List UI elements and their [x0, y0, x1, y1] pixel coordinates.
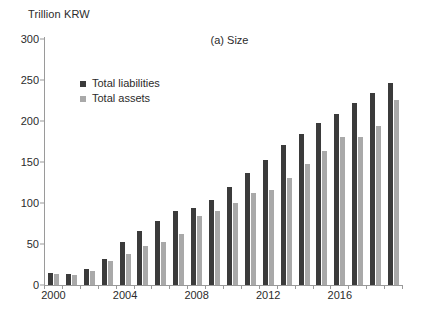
- bar-assets: [251, 193, 256, 285]
- x-tick-mark: [62, 285, 63, 289]
- x-tick-mark: [187, 285, 188, 289]
- y-tick-mark-200: [40, 121, 44, 122]
- y-tick-label-150: 150: [21, 156, 39, 168]
- bar-assets: [126, 254, 131, 285]
- bar-assets: [179, 234, 184, 285]
- bar-liabilities: [334, 114, 339, 285]
- bar-liabilities: [316, 123, 321, 285]
- bar-liabilities: [173, 211, 178, 285]
- x-tick-mark: [98, 285, 99, 289]
- y-tick-label-250: 250: [21, 74, 39, 86]
- bar-liabilities: [191, 208, 196, 285]
- x-tick-mark: [169, 285, 170, 289]
- x-tick-mark: [80, 285, 81, 289]
- chart-figure: Trillion KRW (a) Size 050100150200250300…: [0, 0, 423, 323]
- legend-item-total-liabilities: Total liabilities: [80, 78, 160, 89]
- x-tick-label-2000: 2000: [41, 289, 65, 301]
- x-tick-mark: [277, 285, 278, 289]
- bar-liabilities: [245, 173, 250, 285]
- bar-assets: [197, 216, 202, 285]
- x-tick-mark: [134, 285, 135, 289]
- bar-liabilities: [84, 269, 89, 285]
- bar-liabilities: [155, 221, 160, 285]
- chart-legend: Total liabilities Total assets: [80, 78, 160, 108]
- bar-liabilities: [388, 83, 393, 285]
- x-tick-label-2012: 2012: [256, 289, 280, 301]
- bar-liabilities: [299, 134, 304, 285]
- x-tick-mark: [259, 285, 260, 289]
- x-tick-mark: [348, 285, 349, 289]
- bar-liabilities: [48, 273, 53, 285]
- x-tick-mark: [151, 285, 152, 289]
- x-tick-mark: [402, 285, 403, 289]
- bar-assets: [376, 126, 381, 285]
- legend-label-total-assets: Total assets: [92, 93, 150, 104]
- y-tick-label-100: 100: [21, 197, 39, 209]
- bar-assets: [305, 164, 310, 285]
- y-tick-mark-100: [40, 203, 44, 204]
- bar-assets: [143, 246, 148, 285]
- y-tick-mark-300: [40, 39, 44, 40]
- bar-assets: [108, 261, 113, 285]
- x-tick-mark: [116, 285, 117, 289]
- bar-liabilities: [66, 274, 71, 285]
- y-tick-mark-150: [40, 162, 44, 163]
- y-tick-mark-50: [40, 244, 44, 245]
- bar-assets: [322, 151, 327, 285]
- bar-assets: [72, 275, 77, 285]
- bar-liabilities: [102, 259, 107, 285]
- bar-liabilities: [370, 93, 375, 285]
- x-tick-mark: [384, 285, 385, 289]
- x-tick-label-2004: 2004: [113, 289, 137, 301]
- x-tick-mark: [223, 285, 224, 289]
- bar-assets: [90, 271, 95, 285]
- legend-label-total-liabilities: Total liabilities: [92, 78, 160, 89]
- x-tick-mark: [366, 285, 367, 289]
- legend-swatch-total-liabilities: [80, 81, 86, 87]
- y-tick-label-200: 200: [21, 115, 39, 127]
- bar-assets: [233, 203, 238, 285]
- bar-liabilities: [281, 145, 286, 285]
- bar-liabilities: [137, 231, 142, 285]
- bar-assets: [394, 100, 399, 285]
- y-tick-mark-250: [40, 80, 44, 81]
- y-tick-label-50: 50: [27, 238, 39, 250]
- y-tick-label-0: 0: [33, 279, 39, 291]
- bar-liabilities: [209, 200, 214, 285]
- bar-assets: [215, 211, 220, 285]
- x-tick-mark: [44, 285, 45, 289]
- y-tick-label-300: 300: [21, 33, 39, 45]
- plot-area: 050100150200250300: [44, 39, 402, 285]
- bar-assets: [358, 137, 363, 285]
- bar-assets: [340, 137, 345, 285]
- bar-assets: [287, 178, 292, 285]
- y-axis-unit-label: Trillion KRW: [28, 8, 90, 20]
- bar-liabilities: [120, 242, 125, 285]
- x-tick-mark: [330, 285, 331, 289]
- bar-liabilities: [227, 187, 232, 285]
- x-tick-label-2008: 2008: [184, 289, 208, 301]
- bar-assets: [54, 274, 59, 285]
- bar-liabilities: [352, 103, 357, 285]
- bar-assets: [161, 242, 166, 285]
- x-tick-mark: [313, 285, 314, 289]
- x-tick-mark: [295, 285, 296, 289]
- legend-swatch-total-assets: [80, 96, 86, 102]
- x-tick-label-2016: 2016: [328, 289, 352, 301]
- x-tick-mark: [241, 285, 242, 289]
- legend-item-total-assets: Total assets: [80, 93, 160, 104]
- x-tick-mark: [205, 285, 206, 289]
- bar-assets: [269, 190, 274, 285]
- bar-liabilities: [263, 160, 268, 285]
